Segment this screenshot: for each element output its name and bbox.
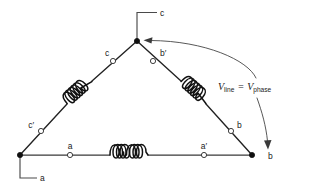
label-line-a: a	[40, 173, 45, 183]
terminal-b-marker	[228, 128, 233, 133]
delta-winding-diagram: c a b c b′ c′ b a a′ Vline=Vphase	[0, 0, 309, 191]
phase-a-winding-coil	[110, 145, 148, 159]
coil-right-path	[179, 74, 213, 106]
label-terminal-a-prime: a′	[201, 141, 208, 151]
label-terminal-b-prime: b′	[160, 48, 167, 58]
label-terminal-c-prime: c′	[28, 120, 34, 130]
straight-annotation-arrow	[257, 98, 272, 150]
lead-line-a	[20, 155, 37, 178]
phase-b-winding-coil	[179, 74, 213, 106]
terminal-a-marker	[67, 152, 72, 157]
curved-arrow-path	[151, 41, 256, 79]
triangle-wires	[20, 41, 252, 155]
diagram-canvas: c a b c b′ c′ b a a′ Vline=Vphase	[0, 0, 309, 191]
terminal-b-prime-marker	[150, 58, 155, 63]
voltage-relation-label: Vline=Vphase	[218, 81, 272, 94]
v-line-subscript: line	[224, 86, 235, 93]
straight-arrow-path	[257, 98, 268, 141]
junction-apex-c	[134, 38, 139, 43]
lead-line-c	[137, 13, 157, 42]
wire-right-upper	[137, 41, 181, 81]
equals-sign: =	[237, 81, 244, 92]
terminal-a-prime-marker	[201, 152, 206, 157]
junction-bottom-left-a	[17, 152, 22, 157]
label-terminal-b: b	[237, 120, 242, 130]
voltage-relation-text: Vline=Vphase	[218, 81, 272, 94]
straight-arrow-head-icon	[264, 140, 272, 150]
label-terminal-c: c	[105, 48, 110, 58]
junction-bottom-right-b	[249, 152, 254, 157]
curved-arrow-head-icon	[144, 37, 153, 43]
terminal-c-marker	[110, 58, 115, 63]
label-line-c: c	[160, 8, 165, 18]
label-terminal-a: a	[68, 141, 73, 151]
terminal-c-prime-marker	[38, 128, 43, 133]
coil-bottom-path-2	[127, 145, 149, 159]
phase-c-winding-coil	[61, 74, 95, 106]
coil-left-path	[61, 74, 95, 106]
label-line-b: b	[268, 151, 273, 161]
v-phase-subscript: phase	[253, 86, 271, 94]
